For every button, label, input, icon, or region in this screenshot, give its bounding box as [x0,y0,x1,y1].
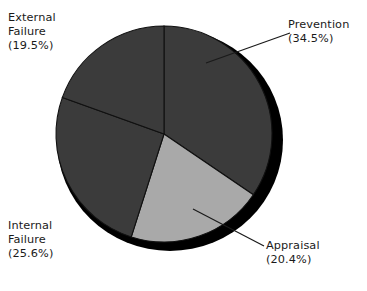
pie-label-internal-failure: Internal Failure (25.6%) [8,219,53,262]
pie-label-internal-failure-line1: Internal [8,219,53,233]
pie-label-external-failure-line1: External [8,11,56,25]
pie-label-external-failure: External Failure (19.5%) [8,11,56,54]
pie-label-appraisal-line1: Appraisal [266,239,320,253]
pie-label-prevention-line1: Prevention [288,18,349,32]
pie-label-external-failure-value: (19.5%) [8,39,56,53]
pie-slices [56,26,272,242]
pie-label-internal-failure-value: (25.6%) [8,247,53,261]
pie-label-internal-failure-line2: Failure [8,233,53,247]
pie-label-prevention-value: (34.5%) [288,32,349,46]
pie-label-appraisal-value: (20.4%) [266,253,320,267]
pie-label-prevention: Prevention (34.5%) [288,18,349,46]
pie-label-external-failure-line2: Failure [8,25,56,39]
pie-chart: External Failure (19.5%) Prevention (34.… [0,0,367,291]
pie-label-appraisal: Appraisal (20.4%) [266,239,320,267]
